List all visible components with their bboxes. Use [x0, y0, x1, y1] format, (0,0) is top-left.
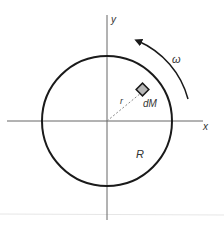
rotating-disk-diagram: y x r dM R ω [0, 0, 224, 231]
scan-artifact-line [0, 214, 224, 215]
mass-element-square [136, 83, 149, 96]
disk-radius-label: R [136, 148, 144, 160]
angular-velocity-label: ω [172, 53, 181, 65]
radius-label: r [120, 96, 124, 106]
radius-line [107, 93, 141, 121]
x-axis-label: x [202, 121, 209, 132]
mass-element-label: dM [143, 98, 158, 109]
y-axis-label: y [110, 14, 117, 25]
